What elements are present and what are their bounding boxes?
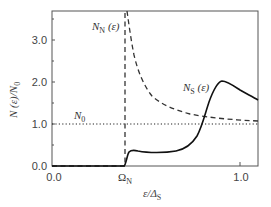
x-axis-title: ε/ΔS — [143, 187, 161, 202]
plot-frame — [52, 11, 258, 166]
n0-label: N0 — [73, 109, 85, 124]
x-tick-omega-n: ΩN — [118, 171, 132, 186]
density-of-states-chart: 0.0 1.0 2.0 3.0 0.0 1.0 ΩN NN (ε) NS (ε)… — [0, 0, 271, 207]
y-tick-0: 0.0 — [32, 160, 47, 172]
nn-dashed-curve — [52, 11, 258, 166]
ns-label: NS (ε) — [182, 81, 210, 96]
x-tick-0: 0.0 — [46, 171, 61, 183]
y-tick-2: 2.0 — [32, 76, 47, 88]
y-tick-1: 1.0 — [32, 118, 47, 130]
x-tick-1: 1.0 — [233, 171, 248, 183]
y-axis-title: N (ε)/N0 — [7, 82, 22, 119]
nn-label: NN (ε) — [91, 20, 120, 35]
y-tick-3: 3.0 — [32, 34, 47, 46]
